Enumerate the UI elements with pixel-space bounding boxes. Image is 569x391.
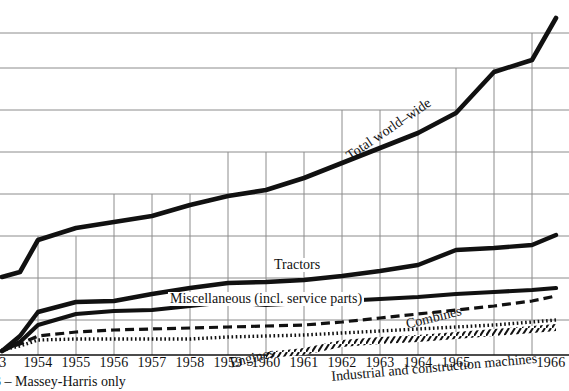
x-axis-tick-labels: 53 1954 1955 1956 1957 1958 1959 1960 19… [0, 355, 569, 375]
x-tick-1955: 1955 [62, 355, 91, 371]
chart-footnote: 3 – Massey-Harris only [0, 374, 126, 390]
curve-label-miscellaneous: Miscellaneous (incl. service parts) [168, 292, 364, 306]
x-tick-1964: 1964 [404, 355, 433, 371]
x-tick-1953: 53 [0, 355, 6, 371]
x-tick-1962: 1962 [328, 355, 357, 371]
x-tick-1956: 1956 [100, 355, 129, 371]
x-tick-1954: 1954 [24, 355, 53, 371]
x-tick-1965: 1965 [442, 355, 471, 371]
x-tick-1963: 1963 [366, 355, 395, 371]
horizontal-gridlines [0, 33, 569, 320]
x-tick-1958: 1958 [176, 355, 205, 371]
x-tick-1960: 1960 [252, 355, 281, 371]
x-tick-1957: 1957 [138, 355, 167, 371]
chart-container: Total world–wide Tractors Miscellaneous … [0, 0, 569, 391]
line-chart-plot [0, 0, 569, 391]
x-tick-1966: 1966 [537, 355, 566, 371]
x-tick-1961: 1961 [290, 355, 319, 371]
series-total-world-wide [2, 18, 556, 277]
x-tick-1959: 1959 [214, 355, 243, 371]
curve-label-tractors: Tractors [272, 258, 322, 272]
